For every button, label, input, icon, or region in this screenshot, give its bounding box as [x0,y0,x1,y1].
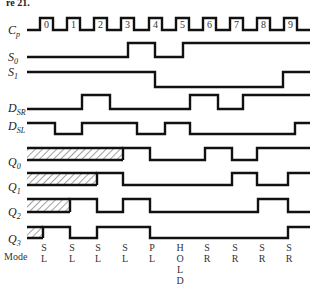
clock-waveform [27,18,310,30]
clock-pulse-number: 1 [71,19,76,30]
mode-letter: R [204,253,211,264]
dsr-waveform [27,95,310,109]
q0-unknown-region [27,148,123,160]
q1-waveform [97,173,310,185]
s0-waveform [27,43,310,57]
q0-label: Q0 [8,155,21,171]
q2-waveform [70,199,310,212]
q3-unknown-region [27,227,43,238]
clock-pulse-number: 4 [153,19,158,30]
dsl-label: DSL [7,119,26,135]
q2-unknown-region [27,199,70,212]
mode-letter: D [176,275,183,286]
dsl-waveform [27,123,310,134]
q2-label: Q2 [8,205,21,221]
q3-label: Q3 [8,232,21,248]
mode-letter: S [41,242,47,253]
clock-label: Cp [8,23,20,39]
mode-label: Mode [4,251,28,262]
clock-pulse-number: 8 [261,19,266,30]
signal-labels: CpS0S1DSRDSLQ0Q1Q2Q3 [7,23,26,248]
s1-label: S1 [8,65,18,81]
mode-letter: S [286,242,292,253]
mode-letter: L [149,253,155,264]
clock-pulse-number: 6 [207,19,212,30]
s1-waveform [27,72,310,87]
mode-letter: S [204,242,210,253]
mode-letter: S [232,242,238,253]
shift-register-timing-diagram: re 21. CpS0S1DSRDSLQ0Q1Q2Q3 0123456789 M… [0,0,320,291]
figure-title-fragment: re 21. [6,0,30,8]
q3-waveform [43,227,310,238]
mode-letter: L [69,253,75,264]
mode-letter: L [122,253,128,264]
mode-row: ModeSLSLSLSLPLHOLDSRSRSRSR [4,242,293,286]
mode-letter: S [259,242,265,253]
mode-letter: L [95,253,101,264]
q1-label: Q1 [8,180,21,196]
mode-letter: R [286,253,293,264]
clock-pulse-number: 0 [44,19,49,30]
q1-unknown-region [27,173,97,185]
dsr-label: DSR [7,101,26,117]
mode-letter: P [149,242,155,253]
mode-letter: H [176,242,183,253]
clock-pulse-number: 5 [180,19,185,30]
clock-pulse-number: 9 [288,19,293,30]
q0-waveform [123,148,310,160]
s0-label: S0 [8,50,18,66]
mode-letter: R [232,253,239,264]
mode-letter: S [95,242,101,253]
mode-letter: S [69,242,75,253]
mode-letter: L [41,253,47,264]
mode-letter: S [122,242,128,253]
mode-letter: R [259,253,266,264]
clock-pulse-number: 7 [234,19,239,30]
clock-pulse-number: 2 [98,19,103,30]
mode-letter: L [177,264,183,275]
clock-pulse-number: 3 [125,19,130,30]
clock-pulse-numbers: 0123456789 [44,19,293,30]
mode-letter: O [176,253,183,264]
waveforms [27,18,310,238]
